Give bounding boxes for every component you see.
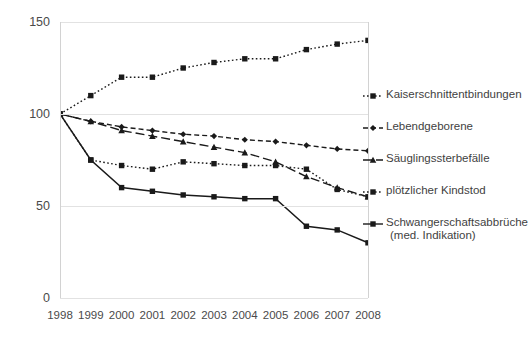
data-point <box>119 163 124 168</box>
data-point <box>303 173 310 179</box>
data-point <box>304 167 309 172</box>
legend-item-0[interactable]: Kaiserschnittentbindungen <box>362 88 530 120</box>
y-tick-label-50: 50 <box>10 200 50 213</box>
data-point <box>211 194 216 199</box>
data-point <box>119 185 124 190</box>
data-point <box>242 163 247 168</box>
legend-marker-icon <box>362 90 384 102</box>
legend-label-1: Lebendgeborene <box>384 120 473 133</box>
data-point <box>273 56 278 61</box>
legend-item-2[interactable]: Säuglingssterbefälle <box>362 152 530 184</box>
legend-label-2: Säuglingssterbefälle <box>384 152 490 165</box>
data-point <box>181 65 186 70</box>
x-tick-label-2008: 2008 <box>348 310 388 322</box>
data-point <box>150 189 155 194</box>
series-2 <box>60 111 369 200</box>
data-point <box>88 93 93 98</box>
data-point <box>149 127 155 133</box>
plot-area <box>60 22 368 298</box>
series-line-2 <box>60 114 368 197</box>
data-point <box>335 187 340 192</box>
data-point <box>273 196 278 201</box>
series-4 <box>60 111 369 245</box>
chart-container: 050100150 199819992000200120022003200420… <box>0 0 530 346</box>
gridline-y-150 <box>60 22 368 23</box>
data-point <box>150 75 155 80</box>
data-point <box>304 224 309 229</box>
legend-label-3: plötzlicher Kindstod <box>384 184 486 197</box>
legend-label-0: Kaiserschnittentbindungen <box>384 88 522 101</box>
y-tick-label-0: 0 <box>10 292 50 305</box>
data-point <box>242 196 247 201</box>
data-point <box>88 157 93 162</box>
data-point <box>334 146 340 152</box>
series-0 <box>60 38 369 117</box>
data-point <box>335 41 340 46</box>
data-point <box>181 192 186 197</box>
legend-label-sub-4: (med. Indikation) <box>386 229 528 242</box>
data-point <box>180 131 186 137</box>
legend-item-1[interactable]: Lebendgeborene <box>362 120 530 152</box>
data-point <box>211 161 216 166</box>
y-axis-line <box>60 22 61 298</box>
gridline-y-0 <box>60 298 368 299</box>
data-point <box>273 139 279 145</box>
data-point <box>242 56 247 61</box>
series-layer <box>60 22 369 299</box>
chart-legend: KaiserschnittentbindungenLebendgeboreneS… <box>362 88 530 248</box>
legend-item-3[interactable]: plötzlicher Kindstod <box>362 184 530 216</box>
legend-marker-icon <box>362 122 384 134</box>
legend-marker-icon <box>362 154 384 166</box>
data-point <box>211 133 217 139</box>
data-point <box>119 75 124 80</box>
legend-label-4: Schwangerschaftsabbrüche(med. Indikation… <box>384 216 528 242</box>
data-point <box>211 60 216 65</box>
series-3 <box>60 111 369 199</box>
data-point <box>335 227 340 232</box>
data-point <box>303 142 309 148</box>
gridline-y-50 <box>60 206 368 207</box>
data-point <box>150 167 155 172</box>
legend-marker-icon <box>362 186 384 198</box>
data-point <box>181 159 186 164</box>
data-point <box>304 47 309 52</box>
legend-marker-icon <box>362 218 384 230</box>
data-point <box>273 163 278 168</box>
legend-item-4[interactable]: Schwangerschaftsabbrüche(med. Indikation… <box>362 216 530 248</box>
data-point <box>242 137 248 143</box>
y-tick-label-150: 150 <box>10 16 50 29</box>
series-line-0 <box>60 40 368 114</box>
y-tick-label-100: 100 <box>10 108 50 121</box>
gridline-y-100 <box>60 114 368 115</box>
